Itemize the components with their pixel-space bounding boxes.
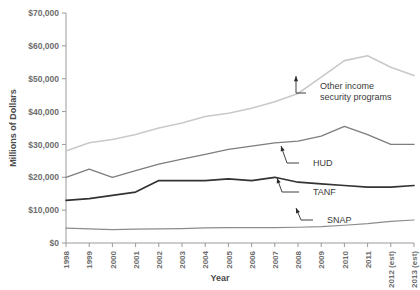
x-axis-tick-label: 1998 bbox=[62, 250, 71, 268]
chart-canvas: $0$10,000$20,000$30,000$40,000$50,000$60… bbox=[0, 0, 420, 290]
y-axis-tick-label: $30,000 bbox=[28, 140, 59, 150]
annotation-label-other-income-security-programs: Other incomesecurity programs bbox=[320, 81, 392, 102]
x-axis-tick-label: 2010 bbox=[341, 250, 350, 268]
annotation-arrowhead-snap bbox=[296, 208, 300, 214]
x-axis-tick-label: 2002 bbox=[155, 250, 164, 268]
x-axis-tick-label: 2006 bbox=[248, 250, 257, 268]
series-line-other-income-security-programs bbox=[66, 56, 414, 151]
x-axis-tick-label: 2013 (est) bbox=[410, 251, 419, 288]
series-line-tanf bbox=[66, 177, 414, 200]
y-axis-tick-label: $50,000 bbox=[28, 74, 59, 84]
y-axis-tick-label: $40,000 bbox=[28, 107, 59, 117]
y-axis-tick-label: $60,000 bbox=[28, 41, 59, 51]
series-line-snap bbox=[66, 220, 414, 230]
annotation-label-snap: SNAP bbox=[327, 215, 352, 225]
annotation-tanf: TANF bbox=[277, 178, 337, 197]
annotation-leader-hud bbox=[281, 146, 299, 163]
x-axis-tick-label: 2011 bbox=[364, 250, 373, 268]
y-axis-tick-label: $20,000 bbox=[28, 172, 59, 182]
x-axis-tick-label: 2005 bbox=[225, 250, 234, 268]
annotation-hud: HUD bbox=[281, 146, 333, 168]
x-axis-tick-label: 2012 (est) bbox=[387, 251, 396, 288]
annotation-arrowhead-hud bbox=[281, 146, 285, 152]
line-chart: $0$10,000$20,000$30,000$40,000$50,000$60… bbox=[0, 0, 420, 290]
x-axis-tick-label: 2003 bbox=[178, 250, 187, 268]
x-axis-tick-label: 2008 bbox=[294, 250, 303, 268]
x-axis-tick-label: 2007 bbox=[271, 250, 280, 268]
x-axis-tick-label: 1999 bbox=[85, 250, 94, 268]
x-axis-title: Year bbox=[210, 273, 230, 283]
annotation-leader-snap bbox=[296, 208, 313, 220]
annotation-snap: SNAP bbox=[296, 208, 352, 225]
annotation-label-hud: HUD bbox=[313, 158, 333, 168]
x-axis-tick-label: 2009 bbox=[317, 250, 326, 268]
series-line-hud bbox=[66, 126, 414, 177]
y-axis-tick-label: $10,000 bbox=[28, 205, 59, 215]
x-axis-tick-label: 2004 bbox=[201, 250, 210, 268]
annotation-other-income-security-programs: Other incomesecurity programs bbox=[294, 76, 392, 102]
y-axis-tick-label: $70,000 bbox=[28, 8, 59, 18]
x-axis-tick-label: 2000 bbox=[109, 250, 118, 268]
annotation-arrowhead-other-income-security-programs bbox=[294, 76, 298, 81]
x-axis-tick-label: 2001 bbox=[132, 250, 141, 268]
annotation-label-tanf: TANF bbox=[313, 187, 336, 197]
y-axis-tick-label: $0 bbox=[50, 238, 60, 248]
y-axis-title: Millions of Dollars bbox=[8, 89, 18, 167]
